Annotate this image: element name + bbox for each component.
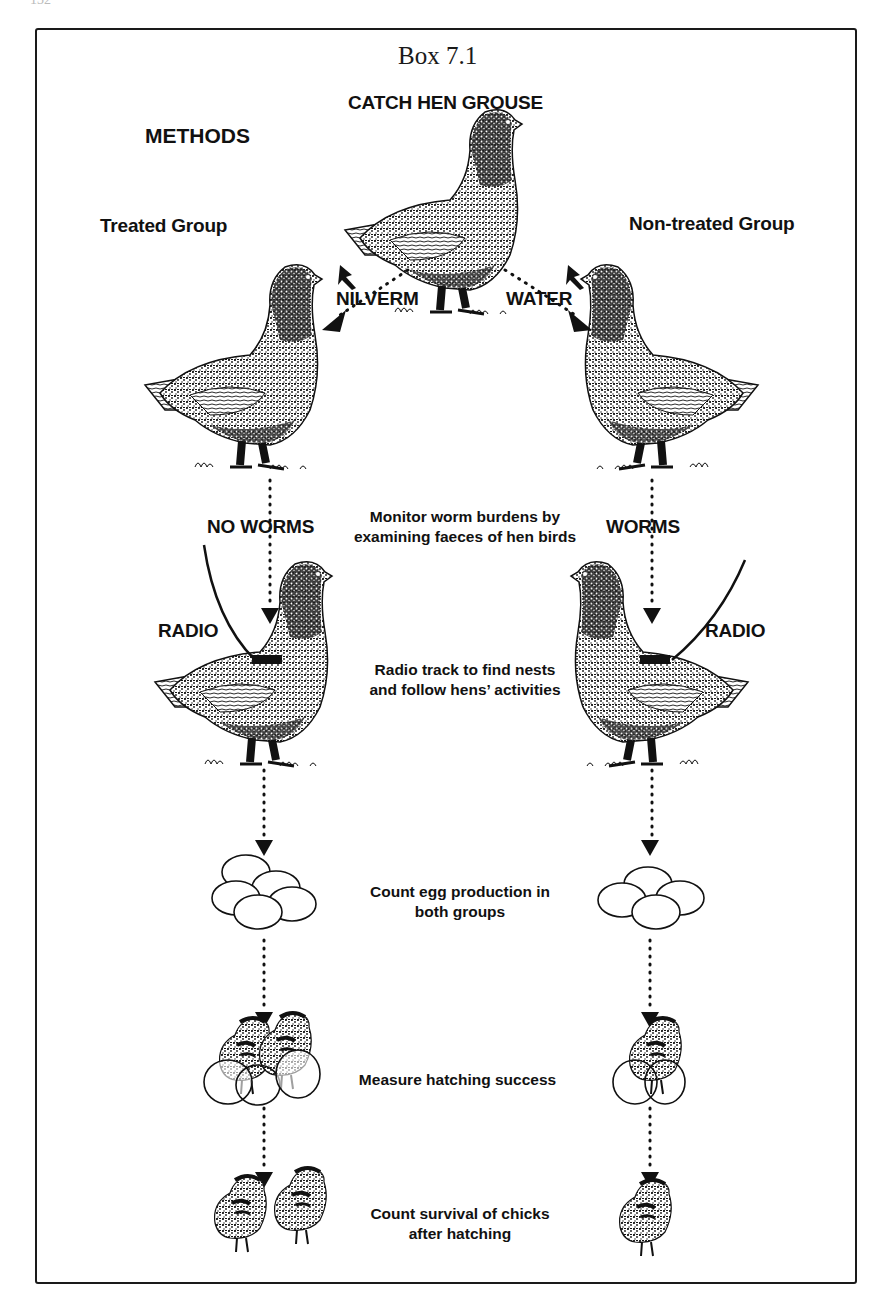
step-hatching: Measure hatching success (340, 1070, 575, 1090)
box-title: Box 7.1 (398, 42, 477, 70)
section-methods: METHODS (145, 124, 250, 148)
step-radio-track: Radio track to find nests and follow hen… (345, 660, 585, 700)
label-radio-non-treated: RADIO (705, 620, 765, 642)
label-treated-group: Treated Group (100, 215, 227, 237)
label-no-worms: NO WORMS (207, 516, 314, 538)
label-non-treated-group: Non-treated Group (629, 213, 795, 235)
step-eggs-line2: both groups (350, 902, 570, 922)
step-count-eggs: Count egg production in both groups (350, 882, 570, 922)
label-nilverm: NILVERM (336, 288, 419, 310)
step-hatching-line1: Measure hatching success (340, 1070, 575, 1090)
step-radio-line2: and follow hens’ activities (345, 680, 585, 700)
step-eggs-line1: Count egg production in (350, 882, 570, 902)
step-chicks-line2: after hatching (350, 1224, 570, 1244)
label-radio-treated: RADIO (158, 620, 218, 642)
step-monitor-line2: examining faeces of hen birds (340, 527, 590, 547)
step-monitor: Monitor worm burdens by examining faeces… (340, 507, 590, 547)
diagram-graphics (0, 0, 885, 1308)
heading-catch-hen-grouse: CATCH HEN GROUSE (348, 92, 543, 114)
step-chick-survival: Count survival of chicks after hatching (350, 1204, 570, 1244)
step-monitor-line1: Monitor worm burdens by (340, 507, 590, 527)
step-chicks-line1: Count survival of chicks (350, 1204, 570, 1224)
step-radio-line1: Radio track to find nests (345, 660, 585, 680)
label-worms: WORMS (606, 516, 680, 538)
grouse-caught (345, 110, 522, 314)
label-water: WATER (506, 288, 572, 310)
